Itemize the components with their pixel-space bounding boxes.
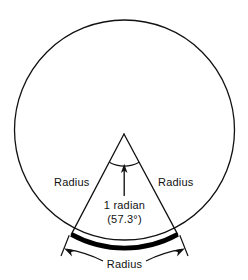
angle-name-label: 1 radian [104, 199, 145, 211]
radian-diagram-figure: Radius Radius 1 radian (57.3°) Radius [0, 0, 248, 280]
radius-label-bottom: Radius [107, 258, 143, 270]
right-extension-tick [180, 235, 188, 256]
left-extension-tick [61, 235, 69, 256]
highlighted-arc [71, 234, 177, 248]
dimension-arrowhead-left [64, 248, 76, 256]
dimension-arrowhead-right [173, 248, 185, 256]
angle-value-label: (57.3°) [107, 213, 142, 225]
radius-label-left: Radius [54, 176, 90, 188]
radius-label-right: Radius [158, 176, 194, 188]
radian-diagram-svg: Radius Radius 1 radian (57.3°) Radius [0, 0, 248, 280]
